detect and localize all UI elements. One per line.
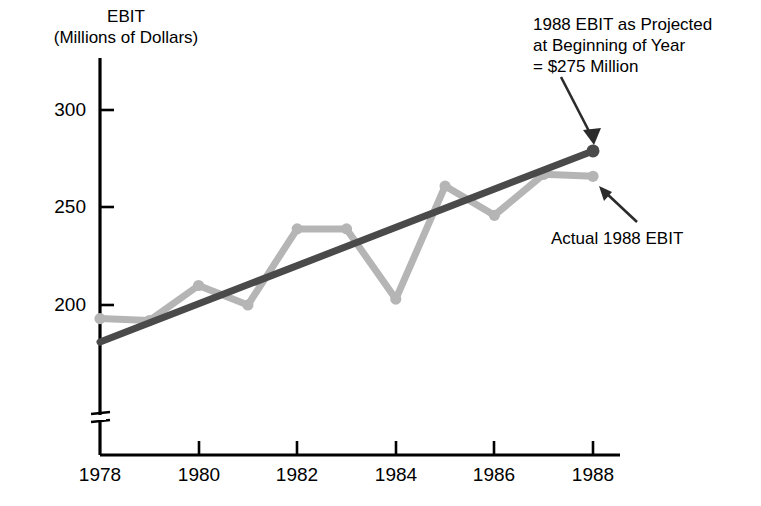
data-point-1982 (292, 223, 303, 234)
x-tick-label-1980: 1980 (164, 464, 234, 486)
x-tick-label-1984: 1984 (361, 464, 431, 486)
data-point-1985 (440, 181, 451, 192)
actual-annotation-arrow-shaft (605, 192, 637, 222)
y-axis-break-lower (91, 420, 110, 422)
data-point-1984 (390, 294, 401, 305)
y-tick-label-200: 200 (26, 294, 86, 316)
data-point-1978 (94, 313, 105, 324)
x-tick-label-1978: 1978 (65, 464, 135, 486)
projected-annotation-arrow-head (583, 128, 601, 145)
annotation-projected-line1: 1988 EBIT as Projected (533, 15, 712, 34)
data-point-1986 (489, 210, 500, 221)
annotation-actual-line1: Actual 1988 EBIT (551, 229, 683, 248)
annotation-actual-ebit: Actual 1988 EBIT (551, 228, 683, 249)
series-projected-trend-line (100, 151, 593, 342)
x-tick-label-1986: 1986 (459, 464, 529, 486)
annotation-projected-line3: = $275 Million (533, 57, 638, 76)
y-tick-label-250: 250 (26, 196, 86, 218)
y-axis-break-upper (91, 412, 110, 414)
annotation-projected-line2: at Beginning of Year (533, 36, 685, 55)
annotation-projected-ebit: 1988 EBIT as Projectedat Beginning of Ye… (533, 14, 712, 77)
y-axis-break-gap (95, 415, 106, 420)
data-point-1980 (193, 280, 204, 291)
x-tick-label-1988: 1988 (558, 464, 628, 486)
projected-endpoint-marker (587, 144, 600, 157)
ebit-chart: EBIT(Millions of Dollars) 300 2 (0, 0, 761, 506)
y-tick-label-300: 300 (26, 99, 86, 121)
actual-annotation-arrow-head (599, 186, 612, 201)
x-tick-label-1982: 1982 (262, 464, 332, 486)
data-point-1983 (341, 223, 352, 234)
data-point-1988 (587, 171, 598, 182)
data-point-1981 (242, 299, 253, 310)
projected-annotation-arrow-shaft (561, 77, 592, 137)
